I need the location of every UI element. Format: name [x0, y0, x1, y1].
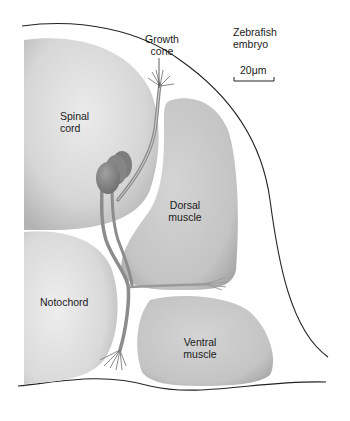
figure-title: Zebrafish embryo — [233, 26, 277, 50]
label-spinal-cord: Spinal cord — [60, 110, 89, 134]
spinal-cord — [24, 38, 159, 230]
label-dorsal-muscle: Dorsal muscle — [160, 199, 210, 223]
scale-bar-label: 20μm — [240, 64, 266, 76]
label-growth-cone: Growth cone — [142, 33, 182, 57]
label-ventral-muscle: Ventral muscle — [175, 336, 225, 360]
label-notochord: Notochord — [40, 296, 88, 308]
scale-bar — [234, 77, 274, 81]
